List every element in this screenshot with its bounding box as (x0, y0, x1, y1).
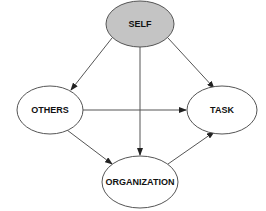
node-organization-label: ORGANIZATION (106, 177, 175, 187)
edge-self-to-task (168, 38, 214, 88)
edge-others-to-organization (67, 130, 112, 164)
edge-self-to-others (71, 38, 112, 90)
edge-organization-to-task (168, 132, 214, 164)
node-task: TASK (187, 86, 257, 134)
node-self: SELF (106, 1, 174, 47)
node-self-label: SELF (128, 19, 152, 29)
node-organization: ORGANIZATION (102, 156, 178, 208)
node-task-label: TASK (210, 105, 234, 115)
node-others-label: OTHERS (31, 105, 69, 115)
node-others: OTHERS (17, 86, 83, 134)
diagram-canvas: SELF OTHERS TASK ORGANIZATION (0, 0, 266, 211)
